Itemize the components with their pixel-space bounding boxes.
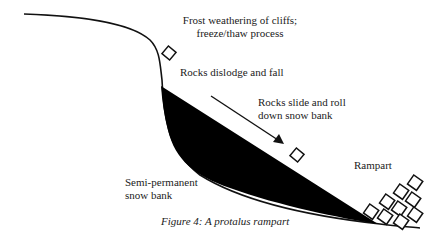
arrow-head-icon xyxy=(273,134,284,144)
snowbank-label: Semi-permanent snow bank xyxy=(125,176,198,202)
snowbank-label-line1: Semi-permanent xyxy=(125,176,198,189)
dislodge-label: Rocks dislodge and fall xyxy=(180,66,284,79)
sliding-rock-icon xyxy=(290,148,304,162)
cliff-profile-line xyxy=(24,14,420,228)
frost-label-line2: freeze/thaw process xyxy=(140,27,340,40)
snowbank-label-line2: snow bank xyxy=(125,189,198,202)
slide-label: Rocks slide and roll down snow bank xyxy=(258,96,346,122)
slide-label-line1: Rocks slide and roll xyxy=(258,96,346,109)
frost-label-line1: Frost weathering of cliffs; xyxy=(140,14,340,27)
rampart-label: Rampart xyxy=(354,159,392,172)
figure-caption: Figure 4: A protalus rampart xyxy=(161,215,289,228)
falling-rock-icon xyxy=(162,46,176,60)
frost-label: Frost weathering of cliffs; freeze/thaw … xyxy=(140,14,340,40)
slide-label-line2: down snow bank xyxy=(258,109,346,122)
